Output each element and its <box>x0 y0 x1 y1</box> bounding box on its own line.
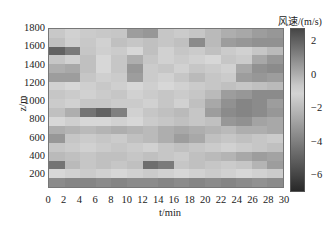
heatmap-cell <box>267 29 283 38</box>
heatmap-cell <box>267 99 283 108</box>
heatmap-cell <box>111 169 127 178</box>
heatmap-cell <box>111 90 127 99</box>
heatmap-cell <box>267 178 283 187</box>
heatmap-cell <box>65 169 81 178</box>
heatmap-cell <box>174 73 190 82</box>
heatmap-cell <box>252 29 268 38</box>
heatmap-cell <box>49 90 65 99</box>
heatmap-cell <box>252 55 268 64</box>
heatmap-cell <box>49 152 65 161</box>
heatmap-cell <box>143 169 159 178</box>
heatmap-cell <box>221 90 237 99</box>
heatmap-cell <box>49 117 65 126</box>
heatmap-cell <box>236 134 252 143</box>
heatmap-cell <box>236 90 252 99</box>
heatmap-cell <box>221 169 237 178</box>
heatmap-cell <box>174 143 190 152</box>
heatmap-cell <box>96 143 112 152</box>
heatmap-cell <box>205 152 221 161</box>
heatmap-cell <box>65 143 81 152</box>
heatmap-cell <box>252 134 268 143</box>
heatmap-cell <box>158 55 174 64</box>
heatmap-cell <box>189 178 205 187</box>
heatmap-cell <box>96 178 112 187</box>
heatmap-cell <box>189 117 205 126</box>
heatmap-grid <box>49 29 283 187</box>
heatmap-cell <box>111 143 127 152</box>
heatmap-cell <box>80 108 96 117</box>
heatmap-cell <box>111 134 127 143</box>
heatmap-cell <box>174 117 190 126</box>
heatmap-cell <box>221 161 237 170</box>
heatmap-cell <box>127 117 143 126</box>
heatmap-cell <box>65 82 81 91</box>
heatmap-cell <box>111 38 127 47</box>
heatmap-cell <box>127 126 143 135</box>
heatmap-cell <box>267 117 283 126</box>
heatmap-cell <box>65 108 81 117</box>
heatmap-cell <box>96 134 112 143</box>
heatmap-cell <box>189 143 205 152</box>
heatmap-cell <box>205 64 221 73</box>
heatmap-cell <box>236 117 252 126</box>
heatmap-cell <box>205 38 221 47</box>
heatmap-cell <box>96 169 112 178</box>
heatmap-cell <box>65 126 81 135</box>
heatmap-cell <box>267 64 283 73</box>
heatmap-cell <box>96 47 112 56</box>
heatmap-cell <box>65 161 81 170</box>
heatmap-cell <box>252 82 268 91</box>
heatmap-cell <box>236 161 252 170</box>
y-tick-label: 1600 <box>15 41 45 51</box>
heatmap-cell <box>80 161 96 170</box>
heatmap-cell <box>96 152 112 161</box>
heatmap-cell <box>111 108 127 117</box>
heatmap-cell <box>267 47 283 56</box>
colorbar-tick-label: 0 <box>311 70 316 80</box>
colorbar-tick-label: −4 <box>311 137 322 147</box>
heatmap-cell <box>236 47 252 56</box>
heatmap-cell <box>127 99 143 108</box>
heatmap-cell <box>158 29 174 38</box>
heatmap-cell <box>96 90 112 99</box>
heatmap-cell <box>236 73 252 82</box>
heatmap-cell <box>65 73 81 82</box>
heatmap-cell <box>49 29 65 38</box>
heatmap-cell <box>205 161 221 170</box>
colorbar-tick-label: 2 <box>311 36 316 46</box>
heatmap-cell <box>96 82 112 91</box>
heatmap-cell <box>49 99 65 108</box>
heatmap-cell <box>80 134 96 143</box>
heatmap-cell <box>80 73 96 82</box>
heatmap-cell <box>111 82 127 91</box>
colorbar <box>290 28 305 192</box>
heatmap-cell <box>174 178 190 187</box>
heatmap-cell <box>221 29 237 38</box>
heatmap-cell <box>189 47 205 56</box>
heatmap-cell <box>189 126 205 135</box>
heatmap-cell <box>174 99 190 108</box>
heatmap-cell <box>236 55 252 64</box>
heatmap-cell <box>174 29 190 38</box>
heatmap-cell <box>127 55 143 64</box>
heatmap-cell <box>49 126 65 135</box>
heatmap-cell <box>252 117 268 126</box>
heatmap-cell <box>174 38 190 47</box>
heatmap-cell <box>205 73 221 82</box>
heatmap-cell <box>143 29 159 38</box>
heatmap-cell <box>143 90 159 99</box>
heatmap-cell <box>65 64 81 73</box>
heatmap-cell <box>236 64 252 73</box>
heatmap-cell <box>158 134 174 143</box>
heatmap-cell <box>252 169 268 178</box>
heatmap-cell <box>252 73 268 82</box>
heatmap-cell <box>252 64 268 73</box>
x-tick-label: 30 <box>274 195 294 205</box>
heatmap-cell <box>143 161 159 170</box>
heatmap-cell <box>49 64 65 73</box>
heatmap-cell <box>127 178 143 187</box>
heatmap-cell <box>49 38 65 47</box>
heatmap-cell <box>127 90 143 99</box>
heatmap-cell <box>189 55 205 64</box>
heatmap-cell <box>221 73 237 82</box>
